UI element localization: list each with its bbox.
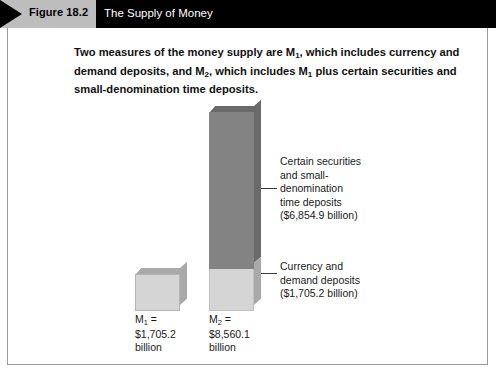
bar-label-m2: M2 =$8,560.1billion — [209, 313, 250, 355]
bar-m2 — [209, 106, 261, 311]
callout-securities: Certain securities and small- denominati… — [280, 155, 430, 223]
figure-number-label: Figure 18.2 — [29, 6, 88, 18]
bar-chart: M1 =$1,705.2billion M2 =$8,560.1billion … — [8, 28, 489, 365]
bar-label-m2-symbol: M — [209, 313, 218, 325]
bar-m2-side-face-currency — [254, 257, 261, 305]
bar-label-m1-value: $1,705.2 — [135, 328, 176, 340]
bar-m1-side-face — [180, 262, 187, 305]
leader-line-securities — [261, 188, 277, 189]
bar-label-m1-subscript: 1 — [144, 318, 148, 327]
bar-label-m1-symbol: M — [135, 313, 144, 325]
bar-label-m2-subscript: 2 — [218, 318, 222, 327]
bar-m2-segment-securities — [209, 112, 254, 269]
bar-m2-side-face-securities — [254, 100, 261, 263]
bar-m1-front-face — [135, 274, 180, 311]
leader-line-currency — [261, 273, 277, 274]
bar-label-m2-value: $8,560.1 — [209, 328, 250, 340]
bar-label-m2-unit: billion — [209, 341, 236, 353]
figure-header: Figure 18.2 The Supply of Money — [0, 0, 496, 28]
bar-label-m1: M1 =$1,705.2billion — [135, 313, 176, 355]
bar-m2-segment-currency — [209, 269, 254, 311]
figure-title: The Supply of Money — [104, 7, 213, 19]
bar-label-m1-unit: billion — [135, 341, 162, 353]
figure-body-panel: Two measures of the money supply are M1,… — [7, 28, 488, 365]
bar-m1 — [135, 268, 187, 311]
bar-label-m2-equals: = — [222, 313, 231, 325]
callout-currency: Currency and demand deposits ($1,705.2 b… — [280, 260, 430, 301]
bar-label-m1-equals: = — [148, 313, 157, 325]
